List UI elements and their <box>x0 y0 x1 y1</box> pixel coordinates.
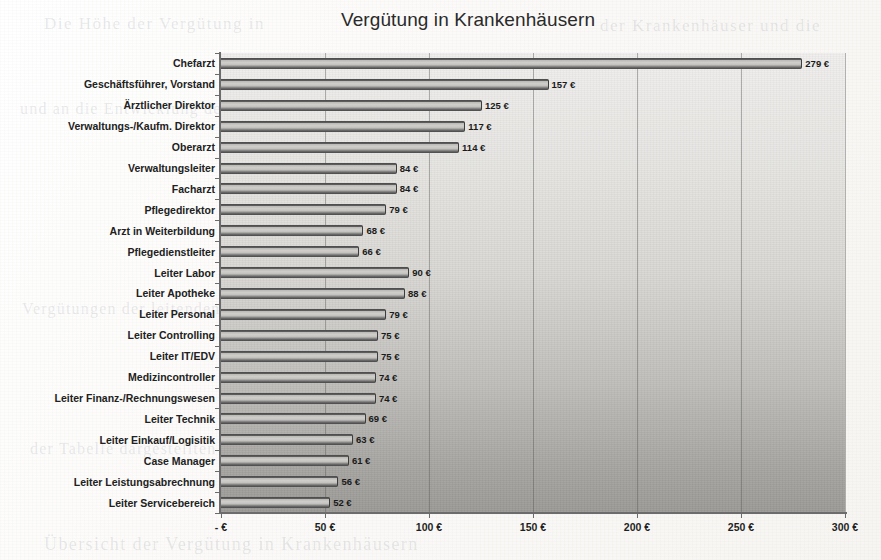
y-axis-tick <box>215 220 220 221</box>
category-label: Case Manager <box>144 455 215 467</box>
x-axis-tick-label: 50 € <box>315 521 335 533</box>
y-axis-tick <box>215 492 220 493</box>
bar-value-label: 125 € <box>485 100 509 111</box>
y-axis-tick <box>215 95 220 96</box>
bar <box>221 309 386 320</box>
bar <box>221 246 359 257</box>
bar <box>221 434 353 445</box>
bar <box>221 497 330 508</box>
bar-value-label: 88 € <box>408 288 427 299</box>
y-axis-tick <box>215 325 220 326</box>
bar <box>221 330 378 341</box>
bar-value-label: 157 € <box>552 79 576 90</box>
bar <box>221 100 482 111</box>
bar <box>221 204 386 215</box>
y-axis-tick <box>215 408 220 409</box>
bar-value-label: 52 € <box>333 497 352 508</box>
x-axis-tick-label: 150 € <box>520 521 546 533</box>
bar <box>221 58 802 69</box>
gridline-150 <box>533 53 534 513</box>
scanned-page: Die Höhe der Vergütung in der Krankenhäu… <box>0 0 881 560</box>
y-axis-tick <box>215 137 220 138</box>
y-axis-tick <box>215 262 220 263</box>
bar <box>221 225 363 236</box>
plot-area <box>221 53 845 513</box>
y-axis-tick <box>215 241 220 242</box>
x-axis-tick-50 <box>325 513 326 518</box>
bar-value-label: 117 € <box>468 121 491 132</box>
gridline-300 <box>845 53 846 513</box>
x-axis-tick-label: 100 € <box>416 521 442 533</box>
bar-value-label: 90 € <box>412 267 431 278</box>
y-axis-tick <box>215 158 220 159</box>
bar <box>221 267 409 278</box>
x-axis-tick-300 <box>845 513 846 518</box>
bar <box>221 393 376 404</box>
category-label: Leiter IT/EDV <box>150 350 215 362</box>
bar-value-label: 114 € <box>462 142 485 153</box>
bar-value-label: 279 € <box>805 58 829 69</box>
bar <box>221 372 376 383</box>
category-label: Leiter Labor <box>154 267 215 279</box>
x-axis-tick-150 <box>533 513 534 518</box>
category-label: Ärztlicher Direktor <box>123 99 215 111</box>
gridline-250 <box>741 53 742 513</box>
y-axis-tick <box>215 388 220 389</box>
x-axis-tick-100 <box>429 513 430 518</box>
bar-value-label: 63 € <box>356 434 375 445</box>
category-label: Oberarzt <box>172 141 215 153</box>
category-label: Pflegedirektor <box>144 204 215 216</box>
gridline-200 <box>637 53 638 513</box>
bar <box>221 121 465 132</box>
category-label: Verwaltungsleiter <box>128 162 215 174</box>
category-label: Leiter Apotheke <box>136 287 215 299</box>
y-axis-tick <box>215 367 220 368</box>
y-axis-tick <box>215 450 220 451</box>
bar-value-label: 61 € <box>352 455 371 466</box>
y-axis-tick <box>215 513 220 514</box>
bar-value-label: 68 € <box>366 225 385 236</box>
bar-value-label: 74 € <box>379 393 398 404</box>
bar-value-label: 66 € <box>362 246 381 257</box>
category-label: Geschäftsführer, Vorstand <box>84 78 215 90</box>
x-axis-tick-250 <box>741 513 742 518</box>
y-axis-tick <box>215 53 220 54</box>
category-label: Leiter Leistungsabrechnung <box>74 476 215 488</box>
y-axis-tick <box>215 199 220 200</box>
bar <box>221 413 366 424</box>
bar <box>221 455 349 466</box>
y-axis-tick <box>215 429 220 430</box>
category-label: Arzt in Weiterbildung <box>110 225 215 237</box>
bar-value-label: 69 € <box>369 413 388 424</box>
bar-value-label: 75 € <box>381 351 400 362</box>
category-label: Pflegedienstleiter <box>127 246 215 258</box>
bar <box>221 79 549 90</box>
x-axis-tick-0 <box>221 513 222 518</box>
category-label: Facharzt <box>172 183 215 195</box>
chart-title: Vergütung in Krankenhäusern <box>0 9 881 31</box>
category-label: Leiter Technik <box>145 413 215 425</box>
y-axis-tick <box>215 304 220 305</box>
bar-value-label: 79 € <box>389 204 408 215</box>
y-axis-tick <box>215 346 220 347</box>
bar-value-label: 74 € <box>379 372 398 383</box>
y-axis-tick <box>215 283 220 284</box>
bar-value-label: 56 € <box>341 476 360 487</box>
bleedthrough-text-f: Übersicht der Vergütung in Krankenhäuser… <box>44 534 419 555</box>
bar-value-label: 75 € <box>381 330 400 341</box>
bar <box>221 183 397 194</box>
category-label: Leiter Einkauf/Logisitik <box>99 434 215 446</box>
bar <box>221 476 338 487</box>
bar <box>221 142 459 153</box>
bar <box>221 288 405 299</box>
category-label: Leiter Finanz-/Rechnungswesen <box>55 392 215 404</box>
category-label: Chefarzt <box>173 57 215 69</box>
bar-value-label: 79 € <box>389 309 408 320</box>
bar-value-label: 84 € <box>400 163 419 174</box>
bar <box>221 163 397 174</box>
x-axis-tick-label: 300 € <box>832 521 858 533</box>
y-axis-tick <box>215 471 220 472</box>
category-label: Medizincontroller <box>128 371 215 383</box>
bar-value-label: 84 € <box>400 183 419 194</box>
x-axis-tick-200 <box>637 513 638 518</box>
